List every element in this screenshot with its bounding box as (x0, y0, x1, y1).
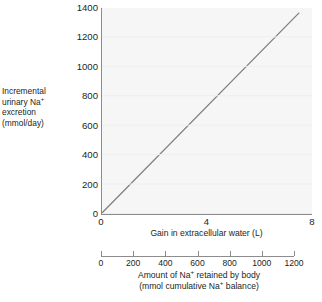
y-axis-title-line-2: urinary Na+ (2, 97, 62, 108)
y-axis-title: Incremental urinary Na+ excretion (mmol/… (2, 86, 62, 128)
series-polyline (101, 13, 299, 214)
secondary-x-axis-tick-mark (133, 251, 134, 256)
superscript-plus: + (190, 268, 194, 275)
y-axis-tick-label: 1000 (62, 62, 98, 72)
y-axis-tick-label: 600 (62, 121, 98, 131)
y-axis-title-line-1: Incremental (2, 86, 62, 97)
y-axis-title-line-3: excretion (2, 107, 62, 118)
y-axis-tick-label: 800 (62, 91, 98, 101)
primary-x-axis-tick-label: 4 (192, 216, 222, 227)
y-axis-tick-label: 400 (62, 150, 98, 160)
secondary-x-axis-tick-mark (165, 251, 166, 256)
primary-x-axis-tick-label: 8 (297, 216, 322, 227)
secondary-x-axis-tick-mark (294, 251, 295, 256)
y-axis-tick-label: 1200 (62, 32, 98, 42)
secondary-x-axis-tick-mark (101, 251, 102, 256)
secondary-x-axis-title: Amount of Na+ retained by body (mmol cum… (86, 270, 312, 293)
superscript-plus: + (220, 280, 224, 287)
secondary-x-axis-tick-label: 1000 (245, 258, 279, 268)
y-axis-title-line-4: (mmol/day) (2, 118, 62, 129)
secondary-x-axis-line (101, 256, 294, 257)
secondary-x-axis-tick-label: 0 (84, 258, 118, 268)
secondary-x-axis-tick-label: 1200 (277, 258, 311, 268)
plot-area (101, 8, 312, 214)
y-axis-tick-label: 200 (62, 180, 98, 190)
secondary-x-axis-tick-label: 600 (181, 258, 215, 268)
y-axis-tick-label: 1400 (62, 3, 98, 13)
y-axis-tick-labels: 1400120010008006004002000 (59, 0, 98, 302)
secondary-x-axis-tick-mark (230, 251, 231, 256)
secondary-x-axis-tick-label: 400 (148, 258, 182, 268)
primary-x-axis-title: Gain in extracellular water (L) (101, 228, 312, 239)
secondary-x-axis-tick-mark (198, 251, 199, 256)
secondary-x-axis-tick-mark (262, 251, 263, 256)
primary-x-axis-tick-label: 0 (86, 216, 116, 227)
secondary-x-axis-tick-label: 800 (213, 258, 247, 268)
secondary-x-axis-title-line-2: (mmol cumulative Na+ balance) (86, 281, 312, 292)
superscript-plus: + (41, 96, 45, 102)
secondary-x-axis-title-line-1: Amount of Na+ retained by body (86, 270, 312, 281)
y-axis-line (101, 8, 102, 215)
data-series-line (101, 8, 312, 214)
secondary-x-axis-tick-label: 200 (116, 258, 150, 268)
